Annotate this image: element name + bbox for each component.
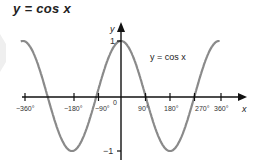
- x-tick-label-neg360: −360°: [16, 105, 35, 112]
- page-edge-decoration: [0, 34, 6, 72]
- x-tick-label-neg90: −90°: [95, 105, 110, 112]
- curve-label: y = cos x: [150, 52, 186, 62]
- y-axis-arrow-icon: [117, 22, 125, 32]
- cosine-curve: [21, 41, 220, 151]
- x-tick-label-360: 360°: [214, 105, 229, 112]
- x-tick-label-neg180: −180°: [64, 105, 83, 112]
- x-tick-label-zero: 0: [113, 99, 117, 106]
- x-axis-arrow-icon: [238, 93, 247, 101]
- x-tick-label-90: 90°: [138, 105, 149, 112]
- y-tick-label-minus-1: −1: [103, 146, 113, 156]
- x-axis-label: x: [241, 104, 247, 114]
- x-tick-label-180: 180°: [164, 105, 179, 112]
- x-tick-label-270: 270°: [195, 105, 210, 112]
- cosine-chart: y 1 −1 x y = cos x −360° −180° −90° 0 90…: [0, 0, 264, 168]
- y-axis-label: y: [109, 24, 115, 34]
- y-tick-label-1: 1: [110, 36, 115, 46]
